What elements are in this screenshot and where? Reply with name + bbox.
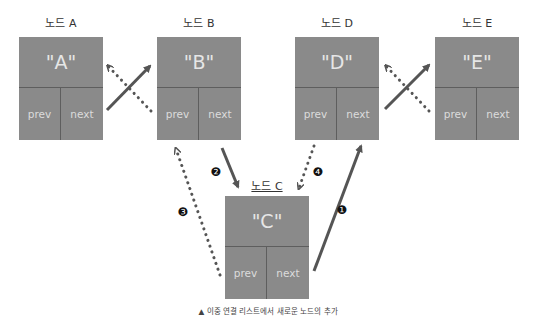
arrows-layer: ❶ ❷ ❸ ❹	[0, 0, 536, 322]
arrow-step2-b-next-to-c	[222, 148, 238, 187]
step-1-marker: ❶	[337, 203, 348, 217]
step-4-marker: ❹	[313, 165, 324, 179]
step-3-marker: ❸	[178, 205, 189, 219]
figure-caption: ▲ 이중 연결 리스트에서 새로운 노드의 추가	[0, 305, 536, 316]
step-2-marker: ❷	[211, 165, 222, 179]
